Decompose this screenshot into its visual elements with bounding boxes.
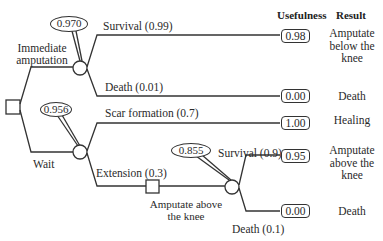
result-line: above the	[322, 157, 382, 170]
root-decision-node	[6, 100, 20, 114]
result-amputate-above-knee: Amputate above the knee	[322, 144, 382, 182]
expected-value-wait: 0.956	[40, 102, 72, 117]
result-line: below the	[322, 40, 382, 53]
chance-node-wait	[73, 145, 87, 159]
usefulness-header: Usefulness	[277, 9, 327, 21]
usefulness-box: 0.00	[281, 204, 310, 218]
outcome-scar-formation: Scar formation (0.7)	[105, 107, 199, 119]
label-line: the knee	[146, 210, 226, 222]
chance-node-immediate	[73, 61, 87, 75]
result-line: Amputate	[322, 144, 382, 157]
result-amputate-below-knee: Amputate below the knee	[322, 27, 382, 65]
outcome-death-01: Death (0.1)	[232, 223, 284, 235]
result-header: Result	[336, 9, 366, 21]
outcome-death-001: Death (0.01)	[105, 81, 163, 93]
subdecision-amputate-above-knee-label: Amputate above the knee	[146, 198, 226, 222]
option-wait-label: Wait	[33, 158, 54, 170]
outcome-survival-09: Survival (0.9)	[218, 147, 282, 159]
usefulness-box: 1.00	[281, 116, 310, 130]
label-line: Amputate above	[146, 198, 226, 210]
label-line: Immediate	[12, 42, 72, 54]
option-immediate-amputation-label: Immediate amputation	[12, 42, 72, 66]
result-healing: Healing	[322, 114, 382, 127]
outcome-survival-099: Survival (0.99)	[103, 20, 173, 32]
result-line: Amputate	[322, 27, 382, 40]
usefulness-box: 0.00	[281, 89, 310, 103]
chance-node-above-knee	[225, 180, 239, 194]
label-line: amputation	[12, 54, 72, 66]
expected-value-above-knee: 0.855	[171, 143, 211, 158]
expected-value-immediate: 0.970	[50, 16, 88, 32]
result-death: Death	[322, 90, 382, 103]
result-line: knee	[322, 52, 382, 65]
result-death: Death	[322, 205, 382, 218]
usefulness-box: 0.95	[281, 149, 310, 163]
outcome-extension: Extension (0.3)	[96, 167, 167, 179]
decision-node-extension	[146, 180, 159, 193]
result-line: knee	[322, 169, 382, 182]
usefulness-box: 0.98	[281, 29, 310, 43]
